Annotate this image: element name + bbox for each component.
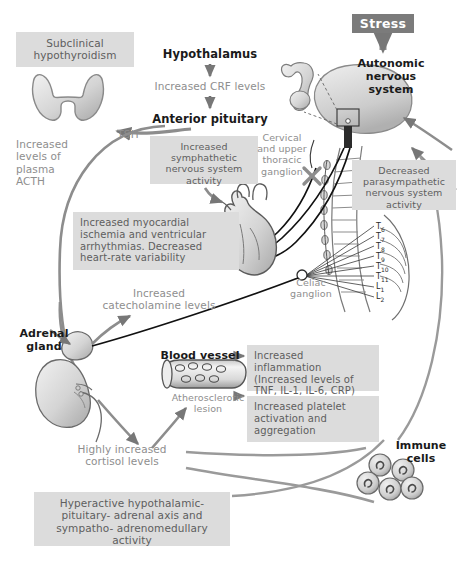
box-increased-platelet-activation: Increased platelet activation and aggreg… xyxy=(247,396,379,442)
spinal-level-T9: T9 xyxy=(376,252,389,262)
label-tsh: TSH xyxy=(108,128,148,140)
label-immune-cells: Immune cells xyxy=(390,440,452,466)
arrow-adrenal-to-cortisol xyxy=(98,400,138,444)
spinal-level-L1: L1 xyxy=(376,282,389,292)
spinal-level-L2: L2 xyxy=(376,292,389,302)
spinal-level-labels: T6T7T8T9T10T11L1L2 xyxy=(376,222,389,302)
arrow-cortisol-to-immune xyxy=(186,448,366,455)
box-hyperactive-hpa-axis: Hyperactive hypothalamic-pituitary- adre… xyxy=(34,492,230,546)
box-increased-inflammation: Increased inflammation (Increased levels… xyxy=(247,345,379,391)
label-autonomic-nervous-system: Autonomic nervous system xyxy=(343,58,439,97)
box-decreased-parasympathetic-activity: Decreased parasympathetic nervous system… xyxy=(352,160,456,210)
label-plasma-acth: Increased levels of plasma ACTH xyxy=(16,138,94,188)
diagram-canvas: Subclinical hypothyroidism Stress Autono… xyxy=(0,0,462,570)
spinal-level-T8: T8 xyxy=(376,242,389,252)
label-cortisol-levels: Highly increased cortisol levels xyxy=(62,443,182,468)
box-myocardial-ischemia: Increased myocardial ischemia and ventri… xyxy=(73,212,239,270)
arrow-hpa-to-immune xyxy=(232,440,384,496)
label-increased-crf: Increased CRF levels xyxy=(142,80,278,92)
box-subclinical-hypothyroidism: Subclinical hypothyroidism xyxy=(16,32,134,67)
label-adrenal-gland: Adrenal gland xyxy=(8,328,80,354)
label-increased-catecholamine: Increased catecholamine levels xyxy=(92,287,226,312)
brainstem-detail-box xyxy=(337,109,359,126)
arrow-feedback-to-ans-1 xyxy=(404,118,452,150)
thyroid-gland-illustration xyxy=(33,75,104,121)
label-cervical-ganglion: Cervical and upper thoracic ganglion xyxy=(248,132,316,177)
spinal-level-T11: T11 xyxy=(376,272,389,282)
blood-vessel-illustration xyxy=(162,360,246,388)
arrow-adrenal-to-catecholamine xyxy=(92,316,130,344)
label-celiac-ganglion: Celiac ganglion xyxy=(283,277,339,299)
pituitary-illustration xyxy=(282,63,314,111)
spinal-level-T10: T10 xyxy=(376,262,389,272)
label-blood-vessel: Blood vessel xyxy=(154,350,246,363)
label-atherosclerotic-lesion: Atherosclerotic lesion xyxy=(168,392,248,414)
label-anterior-pituitary: Anterior pituitary xyxy=(142,113,278,127)
spinal-level-T7: T7 xyxy=(376,232,389,242)
arrow-symp-to-heart xyxy=(205,188,222,202)
box-stress: Stress xyxy=(352,14,414,33)
label-hypothalamus: Hypothalamus xyxy=(150,48,270,62)
spinal-level-T6: T6 xyxy=(376,222,389,232)
box-increased-sympathetic-activity: Increased symphathetic nervous system ac… xyxy=(150,136,258,184)
